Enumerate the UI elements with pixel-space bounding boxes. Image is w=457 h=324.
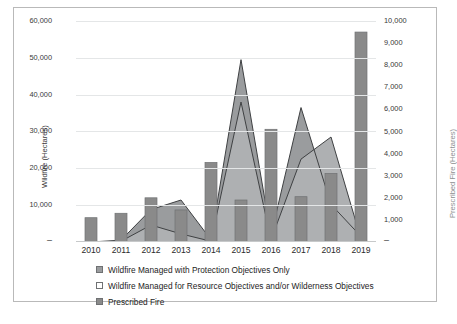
legend-label-resource-objectives: Wildfire Managed for Resource Objectives… xyxy=(108,281,374,291)
x-axis-tick-2016: 2016 xyxy=(256,245,286,255)
legend-label-prescribed-fire: Prescribed Fire xyxy=(108,297,164,307)
bar-2016 xyxy=(265,129,277,242)
legend-item-protection-objectives[interactable]: Wildfire Managed with Protection Objecti… xyxy=(96,264,416,275)
y-right-tick-3000: 3,000 xyxy=(384,172,430,180)
legend-label-protection-objectives: Wildfire Managed with Protection Objecti… xyxy=(108,265,290,275)
x-axis-tick-2017: 2017 xyxy=(286,245,316,255)
y-left-tick-zero: – xyxy=(8,236,52,244)
x-axis-tick-2011: 2011 xyxy=(106,245,136,255)
y-right-tick-1000: 1,000 xyxy=(384,216,430,224)
y-left-tick-10000: 10,000 xyxy=(8,201,52,209)
bar-2017 xyxy=(295,197,307,242)
y-right-tick-5000: 5,000 xyxy=(384,128,430,136)
chart-frame: 60,000 50,000 40,000 30,000 20,000 10,00… xyxy=(13,7,437,302)
bar-2013 xyxy=(175,210,187,242)
x-axis-tick-2019: 2019 xyxy=(346,245,376,255)
y-right-tick-7000: 7,000 xyxy=(384,83,430,91)
y-right-tick-8000: 8,000 xyxy=(384,61,430,69)
legend-item-prescribed-fire[interactable]: Prescribed Fire xyxy=(96,296,416,307)
bar-2015 xyxy=(235,200,247,242)
y-right-tick-zero: – xyxy=(384,236,430,244)
x-axis-tick-2018: 2018 xyxy=(316,245,346,255)
y-left-tick-40000: 40,000 xyxy=(8,91,52,99)
y-axis-left-title: Wildfire (Hectares) xyxy=(40,125,49,188)
bar-2014 xyxy=(205,162,217,242)
y-left-tick-60000: 60,000 xyxy=(8,17,52,25)
bar-2018 xyxy=(325,173,337,242)
y-left-tick-50000: 50,000 xyxy=(8,54,52,62)
bar-2019 xyxy=(355,32,367,242)
gridline-40000 xyxy=(76,95,376,96)
x-axis-tick-2013: 2013 xyxy=(166,245,196,255)
plot-area xyxy=(76,21,376,242)
legend-item-resource-objectives[interactable]: Wildfire Managed for Resource Objectives… xyxy=(96,280,416,291)
y-right-tick-6000: 6,000 xyxy=(384,105,430,113)
x-axis-tick-2015: 2015 xyxy=(226,245,256,255)
x-axis-tick-2014: 2014 xyxy=(196,245,226,255)
gridline-20000 xyxy=(76,168,376,169)
gridline-30000 xyxy=(76,131,376,132)
x-axis-baseline xyxy=(76,241,376,242)
gridline-60000 xyxy=(76,21,376,22)
x-axis-tick-2010: 2010 xyxy=(76,245,106,255)
x-axis-tick-2012: 2012 xyxy=(136,245,166,255)
legend-swatch-protection-objectives xyxy=(96,266,103,273)
chart-legend: Wildfire Managed with Protection Objecti… xyxy=(96,264,416,312)
gridline-50000 xyxy=(76,58,376,59)
bar-2010 xyxy=(85,218,97,242)
gridline-10000 xyxy=(76,205,376,206)
y-right-tick-10000: 10,000 xyxy=(384,17,430,25)
y-right-tick-4000: 4,000 xyxy=(384,150,430,158)
legend-swatch-prescribed-fire xyxy=(96,298,103,305)
bar-2011 xyxy=(115,213,127,242)
legend-swatch-resource-objectives xyxy=(96,282,103,289)
y-axis-right-title: Prescribed Fire (Hectares) xyxy=(448,129,457,218)
y-right-tick-9000: 9,000 xyxy=(384,39,430,47)
y-right-tick-2000: 2,000 xyxy=(384,194,430,202)
